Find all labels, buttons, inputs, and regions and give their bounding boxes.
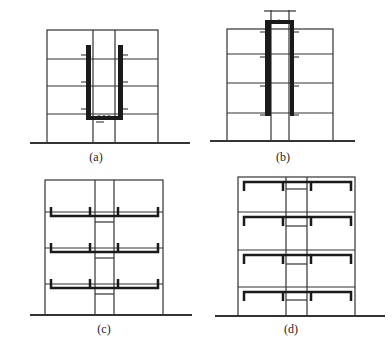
diagram-canvas <box>0 0 392 348</box>
panel-c-label: (c) <box>97 322 110 337</box>
panel-b-reinforcement <box>265 20 294 117</box>
panel-a-label: (a) <box>89 150 102 165</box>
panel-b-building <box>210 10 355 141</box>
panel-b-label: (b) <box>276 150 290 165</box>
panel-a-reinforcement <box>86 45 123 120</box>
panel-a-building <box>30 30 190 143</box>
panel-d-building <box>215 177 385 316</box>
panel-c-building <box>30 180 192 315</box>
panel-d-beams <box>244 182 351 301</box>
panel-d-label: (d) <box>284 322 298 337</box>
